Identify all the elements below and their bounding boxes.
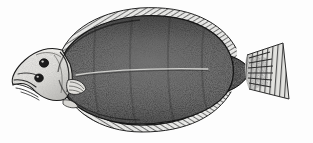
flatfish-engraving — [0, 0, 313, 143]
illustration-figure: Antique black-and-white engraving of a f… — [0, 0, 313, 143]
eye-upper — [39, 59, 48, 67]
eye-lower — [35, 74, 44, 82]
